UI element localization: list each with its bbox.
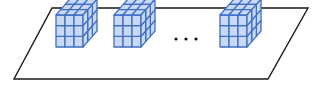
ellipsis-dot — [174, 37, 177, 40]
cube-plane-diagram — [0, 0, 322, 91]
ellipsis-dot — [184, 37, 187, 40]
diagram-canvas: … — [0, 0, 322, 91]
ellipsis-dot — [194, 37, 197, 40]
